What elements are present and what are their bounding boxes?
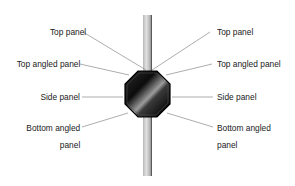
label-side-panel-right: Side panel <box>217 91 257 102</box>
label-bottom-angled-right: Bottom angled <box>217 122 271 133</box>
label-bottom-angled-panel-right: panel <box>217 139 237 150</box>
label-top-angled-panel-right: Top angled panel <box>217 58 281 69</box>
label-top-panel-left: Top panel <box>50 26 86 37</box>
octagon-fixture <box>125 71 170 117</box>
label-top-panel-right: Top panel <box>217 26 253 37</box>
label-side-panel-left: Side panel <box>40 91 80 102</box>
label-bottom-angled-panel-left: panel <box>60 139 80 150</box>
label-bottom-angled-left: Bottom angled <box>26 122 80 133</box>
label-top-angled-panel-left: Top angled panel <box>16 58 80 69</box>
